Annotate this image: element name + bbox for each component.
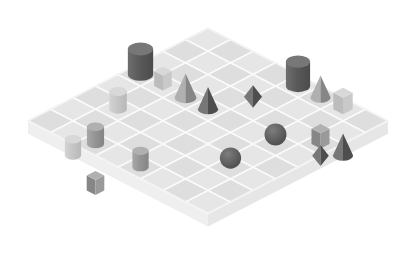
cylinder-dark-left xyxy=(128,43,153,81)
isometric-scene xyxy=(0,0,416,273)
cylinder-light-front xyxy=(65,135,81,160)
sphere-body xyxy=(220,147,241,168)
cylinder-top xyxy=(65,135,81,143)
cube-mid-front xyxy=(87,171,105,195)
cube-light-top xyxy=(333,88,352,114)
cube-light-left xyxy=(154,67,172,91)
scene-canvas xyxy=(0,0,416,273)
sphere-body xyxy=(265,124,287,146)
cylinder-top xyxy=(132,147,148,155)
cylinder-light-left xyxy=(109,87,127,114)
cone-face-right xyxy=(321,76,331,103)
cylinder-top xyxy=(128,43,153,56)
cylinder-dark-front-b xyxy=(132,147,148,172)
sphere-dark-right-a xyxy=(265,124,287,146)
cylinder-top xyxy=(109,87,127,96)
cylinder-dark-front-a xyxy=(87,122,104,148)
grid-platform xyxy=(28,28,388,227)
sphere-dark-right-b xyxy=(220,147,241,168)
cylinder-top xyxy=(286,56,310,68)
cylinder-dark-top xyxy=(286,56,310,93)
cylinder-top xyxy=(87,122,104,131)
cube-mid-right xyxy=(311,124,329,149)
